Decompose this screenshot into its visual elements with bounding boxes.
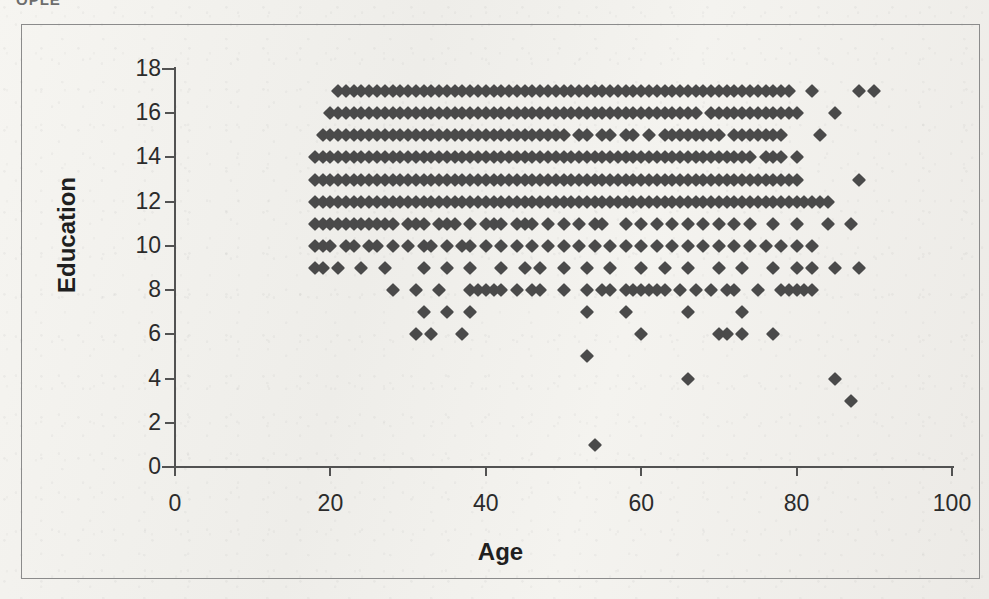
y-axis-tick-label: 8: [117, 278, 161, 301]
x-axis-tick-label: 20: [290, 492, 370, 515]
scatter-point: [696, 217, 710, 231]
scatter-point: [424, 327, 438, 341]
scatter-point: [378, 261, 392, 275]
scatter-point: [634, 239, 648, 253]
plot-area: [175, 69, 952, 467]
y-axis-tick-label: 2: [117, 411, 161, 434]
x-axis-tick: [951, 466, 953, 476]
scatter-point: [790, 217, 804, 231]
scatter-point: [417, 261, 431, 275]
cropped-header-text: OPLE: [16, 0, 61, 8]
scatter-point: [852, 172, 866, 186]
scatter-point: [354, 261, 368, 275]
scatter-point: [790, 239, 804, 253]
scatter-point: [805, 261, 819, 275]
x-axis-line: [174, 466, 954, 468]
scatter-point: [735, 261, 749, 275]
scatter-point: [619, 305, 633, 319]
scatter-point: [525, 239, 539, 253]
y-axis-title: Education: [53, 177, 81, 293]
scatter-point: [790, 261, 804, 275]
scatter-point: [440, 239, 454, 253]
y-axis-tick: [165, 333, 175, 335]
scatter-point: [541, 217, 555, 231]
scatter-point: [440, 261, 454, 275]
scatter-point: [650, 239, 664, 253]
scatter-point: [673, 283, 687, 297]
scatter-point: [603, 239, 617, 253]
scatter-point: [556, 283, 570, 297]
scatter-point: [588, 239, 602, 253]
scatter-point: [743, 239, 757, 253]
scatter-point: [634, 217, 648, 231]
scatter-point: [828, 106, 842, 120]
scatter-point: [580, 283, 594, 297]
y-axis-tick: [165, 245, 175, 247]
scatter-point: [751, 283, 765, 297]
scatter-point: [494, 261, 508, 275]
scatter-point: [766, 217, 780, 231]
scatter-point: [813, 128, 827, 142]
scatter-point: [572, 239, 586, 253]
x-axis-tick-label: 40: [446, 492, 526, 515]
scatter-point: [735, 305, 749, 319]
scatter-point: [455, 327, 469, 341]
y-axis-tick: [162, 68, 175, 70]
scatter-point: [821, 217, 835, 231]
scatter-point: [580, 261, 594, 275]
y-axis-tick-label: 0: [117, 455, 161, 478]
scatter-point: [556, 261, 570, 275]
scatter-point: [828, 261, 842, 275]
scatter-point: [712, 217, 726, 231]
scatter-point: [463, 217, 477, 231]
x-axis-title: Age: [22, 538, 979, 566]
y-axis-tick: [165, 112, 175, 114]
scatter-point: [634, 261, 648, 275]
y-axis-tick-label: 18: [117, 57, 161, 80]
scatter-point: [867, 84, 881, 98]
scatter-point: [494, 239, 508, 253]
scatter-point: [409, 283, 423, 297]
scatter-point: [541, 239, 555, 253]
y-axis-tick-label: 14: [117, 145, 161, 168]
x-axis-tick: [174, 466, 176, 476]
scatter-point: [572, 217, 586, 231]
scatter-point: [432, 283, 446, 297]
scatter-point: [385, 239, 399, 253]
scatter-point: [712, 261, 726, 275]
scatter-point: [370, 239, 384, 253]
x-axis-tick: [640, 466, 642, 476]
scatter-point: [556, 239, 570, 253]
scatter-point: [805, 239, 819, 253]
scatter-point: [409, 327, 423, 341]
scatter-point: [696, 239, 710, 253]
scatter-point: [681, 371, 695, 385]
scatter-point: [634, 327, 648, 341]
scatter-point: [805, 84, 819, 98]
scatter-point: [463, 261, 477, 275]
x-axis-tick-label: 80: [757, 492, 837, 515]
scatter-point: [681, 239, 695, 253]
scatter-point: [852, 261, 866, 275]
scatter-point: [790, 150, 804, 164]
scatter-point: [603, 261, 617, 275]
x-axis-tick: [329, 466, 331, 476]
y-axis-tick-label: 6: [117, 322, 161, 345]
y-axis-tick: [165, 156, 175, 158]
scatter-point: [556, 217, 570, 231]
x-axis-tick-label: 60: [601, 492, 681, 515]
scatter-point: [619, 239, 633, 253]
scatter-point: [704, 283, 718, 297]
scatter-point: [642, 128, 656, 142]
y-axis-tick: [165, 378, 175, 380]
scatter-marker-layer: [175, 69, 952, 467]
scatter-point: [417, 305, 431, 319]
scatter-point: [852, 84, 866, 98]
x-axis-tick-label: 100: [912, 492, 989, 515]
scatter-point: [440, 305, 454, 319]
scatter-point: [828, 371, 842, 385]
scatter-point: [665, 239, 679, 253]
scatter-point: [619, 217, 633, 231]
scatter-point: [510, 239, 524, 253]
y-axis-tick-label: 4: [117, 367, 161, 390]
